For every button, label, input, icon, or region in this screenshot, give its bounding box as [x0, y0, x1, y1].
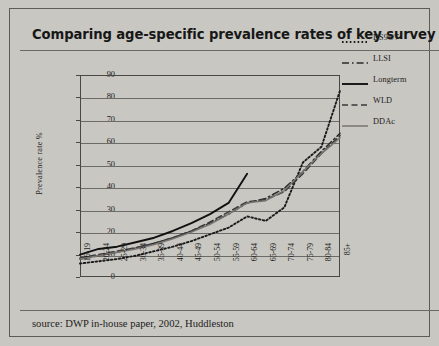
legend-swatch — [342, 96, 368, 106]
series-lines — [80, 75, 340, 277]
x-tick-label: 16-19 — [83, 243, 92, 283]
x-tick-label: 25-29 — [120, 243, 129, 283]
source-divider — [20, 310, 439, 311]
legend: DS96/7LLSILongtermWLDDDAc — [342, 27, 434, 132]
legend-label: LLSI — [373, 54, 391, 63]
series-line — [80, 91, 340, 264]
legend-label: DS96/7 — [373, 33, 399, 42]
series-line — [80, 138, 340, 259]
x-tick-label: 80-84 — [324, 243, 333, 283]
legend-label: WLD — [373, 96, 392, 105]
x-tick-label: 55-59 — [232, 243, 241, 283]
x-tick-label: 85+ — [343, 243, 352, 283]
x-tick-label: 20-24 — [102, 243, 111, 283]
legend-item-ds96-7[interactable]: DS96/7 — [342, 27, 434, 48]
legend-item-llsi[interactable]: LLSI — [342, 48, 434, 69]
legend-swatch — [342, 117, 368, 127]
source-caption: source: DWP in-house paper, 2002, Huddle… — [32, 318, 234, 329]
legend-item-wld[interactable]: WLD — [342, 90, 434, 111]
x-tick-label: 50-54 — [213, 243, 222, 283]
x-tick-label: 35-39 — [157, 243, 166, 283]
x-tick-label: 75-79 — [306, 243, 315, 283]
figure-frame: Comparing age-specific prevalence rates … — [9, 8, 430, 337]
x-tick-label: 30-34 — [139, 243, 148, 283]
chart-page: Comparing age-specific prevalence rates … — [0, 0, 439, 346]
series-line — [80, 133, 340, 259]
series-line — [80, 136, 340, 258]
legend-item-ddac[interactable]: DDAc — [342, 111, 434, 132]
x-tick-label: 45-49 — [194, 243, 203, 283]
legend-label: DDAc — [373, 117, 395, 126]
y-axis-label: Prevalence rate % — [35, 109, 44, 219]
legend-label: Longterm — [373, 75, 407, 84]
legend-swatch — [342, 75, 368, 85]
y-tick-mark — [76, 277, 80, 278]
legend-swatch — [342, 33, 368, 43]
x-tick-label: 40-44 — [176, 243, 185, 283]
legend-item-longterm[interactable]: Longterm — [342, 69, 434, 90]
x-tick-label: 70-74 — [287, 243, 296, 283]
x-tick-label: 60-64 — [250, 243, 259, 283]
x-tick-label: 65-69 — [269, 243, 278, 283]
legend-swatch — [342, 54, 368, 64]
